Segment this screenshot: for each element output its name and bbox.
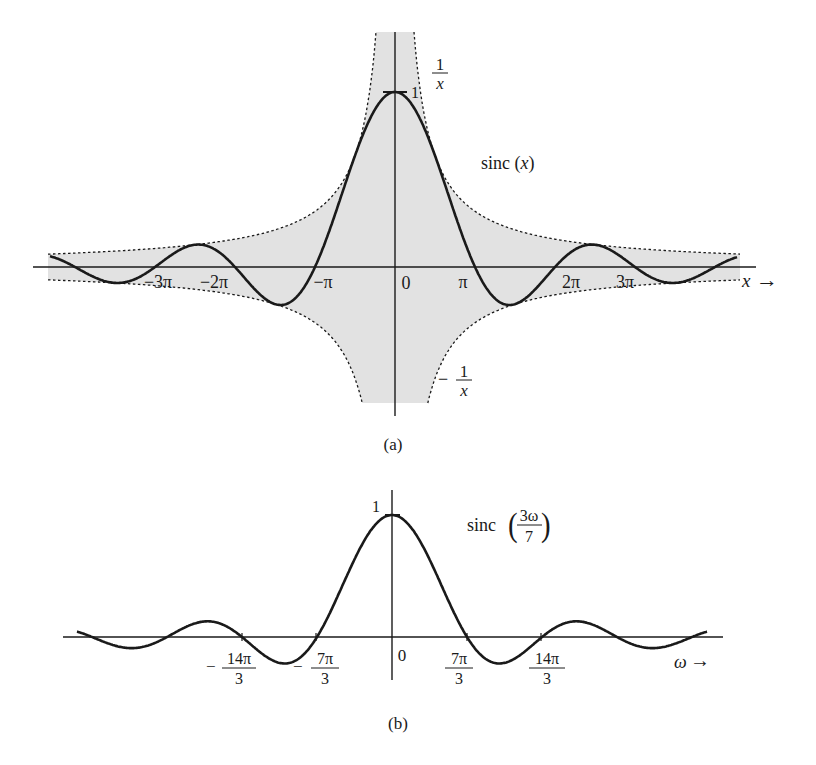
tick-origin-b: 0 bbox=[398, 646, 407, 665]
svg-text:7: 7 bbox=[525, 528, 533, 545]
tick-label-m7pi3: − 7π 3 bbox=[293, 650, 339, 687]
svg-text:7π: 7π bbox=[451, 650, 467, 667]
tick-mpi: −π bbox=[313, 272, 332, 292]
peak-label-b: 1 bbox=[372, 498, 380, 515]
chart-a: 1 1 x sinc (x) − 1 x −3π −2π −π 0 π 2π 3… bbox=[0, 0, 816, 765]
curve-label-b: sinc ( 3ω 7 ) bbox=[467, 506, 551, 545]
axis-arrow-a: → bbox=[756, 267, 778, 292]
x-axis-label-a: x bbox=[741, 270, 751, 291]
svg-text:−: − bbox=[206, 657, 216, 676]
svg-text:1: 1 bbox=[436, 55, 445, 74]
lower-envelope-label: − 1 x bbox=[438, 362, 472, 400]
caption-a: (a) bbox=[384, 435, 403, 454]
envelope-shaded-region bbox=[48, 32, 740, 403]
sinc-text: sinc ( bbox=[481, 153, 521, 174]
svg-text:sinc: sinc bbox=[467, 515, 496, 535]
svg-text:−: − bbox=[438, 369, 448, 389]
svg-text:3ω: 3ω bbox=[520, 507, 539, 524]
svg-text:(: ( bbox=[508, 506, 518, 544]
axis-arrow-b: → bbox=[690, 649, 710, 671]
tick-origin-a: 0 bbox=[402, 273, 411, 293]
svg-text:x: x bbox=[459, 381, 468, 400]
svg-text:14π: 14π bbox=[535, 650, 559, 667]
tick-p2pi: 2π bbox=[562, 272, 580, 292]
curve-label-a: sinc (x) bbox=[481, 153, 535, 174]
svg-text:14π: 14π bbox=[227, 650, 251, 667]
tick-label-m14pi3: − 14π 3 bbox=[206, 650, 256, 687]
svg-text:3: 3 bbox=[235, 670, 243, 687]
svg-text:): ) bbox=[541, 506, 551, 544]
tick-m3pi: −3π bbox=[144, 272, 172, 292]
tick-pi: π bbox=[458, 272, 467, 292]
svg-text:3: 3 bbox=[455, 670, 463, 687]
svg-text:−: − bbox=[293, 657, 303, 676]
peak-label-a: 1 bbox=[411, 84, 419, 101]
tick-label-p7pi3: 7π 3 bbox=[445, 650, 473, 687]
caption-b: (b) bbox=[388, 714, 408, 733]
svg-text:7π: 7π bbox=[317, 650, 333, 667]
tick-label-p14pi3: 14π 3 bbox=[529, 650, 565, 687]
svg-text:3: 3 bbox=[321, 670, 329, 687]
svg-text:1: 1 bbox=[460, 362, 469, 381]
upper-envelope-label: 1 x bbox=[432, 55, 448, 93]
tick-p3pi: 3π bbox=[616, 272, 634, 292]
x-axis-label-b: ω bbox=[674, 652, 687, 672]
svg-text:x: x bbox=[435, 74, 444, 93]
tick-m2pi: −2π bbox=[200, 272, 228, 292]
svg-text:3: 3 bbox=[543, 670, 551, 687]
sinc-arg: x bbox=[520, 153, 529, 173]
